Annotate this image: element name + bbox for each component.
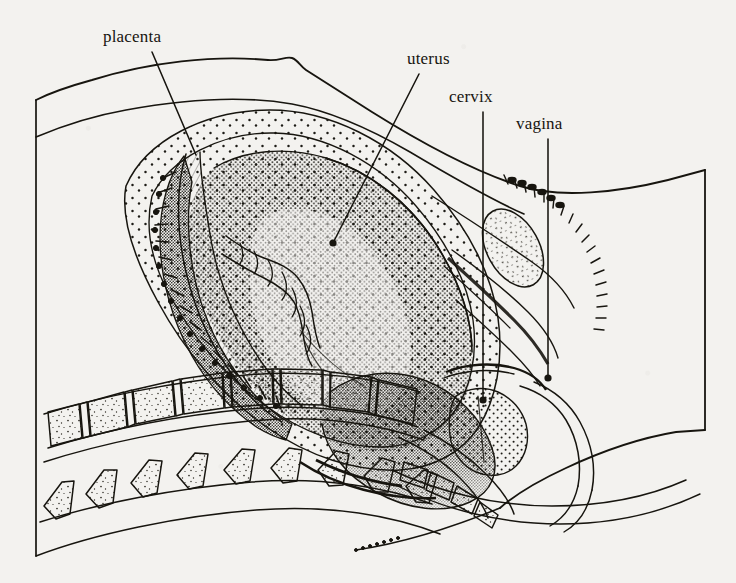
label-uterus: uterus bbox=[407, 50, 450, 67]
label-cervix: cervix bbox=[449, 88, 493, 105]
vaginal-canal bbox=[520, 382, 594, 532]
label-vagina: vagina bbox=[516, 115, 563, 132]
label-placenta: placenta bbox=[103, 28, 161, 45]
anatomical-figure bbox=[0, 0, 736, 583]
